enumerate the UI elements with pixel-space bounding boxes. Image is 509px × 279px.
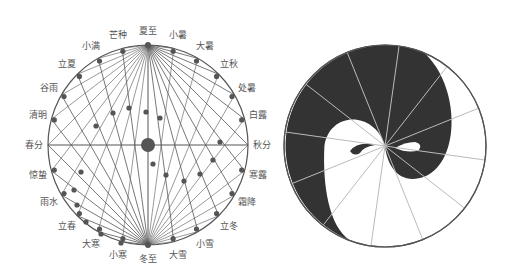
curve-dot	[118, 240, 123, 245]
term-dot	[239, 168, 244, 173]
term-dot	[214, 74, 219, 79]
term-dot	[229, 94, 234, 99]
curve-dot	[98, 231, 103, 236]
solar-term-label: 春分	[25, 139, 43, 150]
term-dot	[52, 168, 57, 173]
term-dot	[61, 94, 66, 99]
shadow-line	[61, 45, 148, 95]
solar-term-label: 秋分	[253, 139, 271, 150]
curve-dot	[143, 109, 148, 114]
solar-term-label: 大雪	[169, 249, 187, 260]
curve-dot	[78, 169, 83, 174]
solar-term-label: 小暑	[169, 30, 187, 40]
solar-term-label: 芒种	[109, 29, 127, 40]
term-dot	[97, 226, 102, 231]
curve-dot	[163, 172, 168, 177]
solar-terms-sundial-diagram: 夏至小暑大暑立秋处暑白露秋分寒露霜降立冬小雪大雪冬至小寒大寒立春雨水惊蛰春分清明…	[25, 26, 271, 264]
curve-dot	[150, 161, 155, 166]
shadow-line	[98, 58, 148, 245]
solar-term-label: 大暑	[196, 40, 214, 51]
winter-solstice-dot	[145, 242, 151, 248]
center-dot	[141, 138, 155, 152]
solar-term-label: 白露	[249, 109, 267, 120]
term-dot	[120, 49, 125, 54]
curve-dot	[157, 115, 162, 120]
solar-term-label: 寒露	[249, 169, 267, 180]
shadow-line	[77, 45, 148, 216]
term-dot	[97, 58, 102, 63]
shadow-line	[148, 45, 198, 232]
solar-term-label: 处暑	[238, 82, 256, 93]
solar-term-label: 清明	[29, 109, 47, 120]
term-dot	[52, 117, 57, 122]
curve-dot	[181, 178, 186, 183]
curve-dot	[126, 105, 131, 110]
curve-dot	[74, 202, 79, 207]
curve-dot	[83, 219, 88, 224]
summer-solstice-dot	[145, 42, 151, 48]
shadow-line	[148, 74, 219, 245]
curve-dot	[217, 139, 222, 144]
solar-term-label: 大寒	[82, 238, 100, 249]
taiji-diagram	[284, 45, 486, 247]
solar-term-label: 立夏	[58, 58, 76, 69]
solar-terms-taiji-figure: 夏至小暑大暑立秋处暑白露秋分寒露霜降立冬小雪大雪冬至小寒大寒立春雨水惊蛰春分清明…	[0, 0, 509, 279]
term-dot	[171, 236, 176, 241]
term-dot	[194, 226, 199, 231]
shadow-line	[148, 45, 219, 216]
solar-term-label: 小雪	[196, 239, 214, 249]
curve-dot	[71, 187, 76, 192]
term-dot	[239, 117, 244, 122]
solar-term-label: 夏至	[139, 26, 157, 36]
solar-term-label: 雨水	[40, 196, 58, 207]
term-dot	[229, 191, 234, 196]
term-dot	[171, 49, 176, 54]
shadow-line	[77, 74, 148, 245]
shadow-line	[148, 45, 235, 95]
shadow-line	[148, 58, 198, 245]
term-dot	[77, 74, 82, 79]
solar-term-label: 霜降	[238, 196, 256, 207]
solar-term-label: 立秋	[220, 58, 238, 69]
term-dot	[214, 211, 219, 216]
term-dot	[77, 211, 82, 216]
solar-term-label: 小寒	[109, 249, 127, 260]
solar-term-label: 小满	[82, 41, 100, 51]
solar-term-label: 立春	[58, 220, 76, 231]
solar-term-label: 惊蛰	[29, 169, 47, 180]
curve-dot	[197, 171, 202, 176]
curve-dot	[110, 110, 115, 115]
curve-dot	[93, 123, 98, 128]
solar-term-label: 冬至	[139, 253, 157, 264]
term-dot	[194, 58, 199, 63]
solar-term-label: 立冬	[220, 220, 238, 231]
curve-dot	[210, 157, 215, 162]
term-dot	[61, 191, 66, 196]
solar-term-label: 谷雨	[40, 83, 58, 93]
shadow-line	[98, 45, 148, 232]
